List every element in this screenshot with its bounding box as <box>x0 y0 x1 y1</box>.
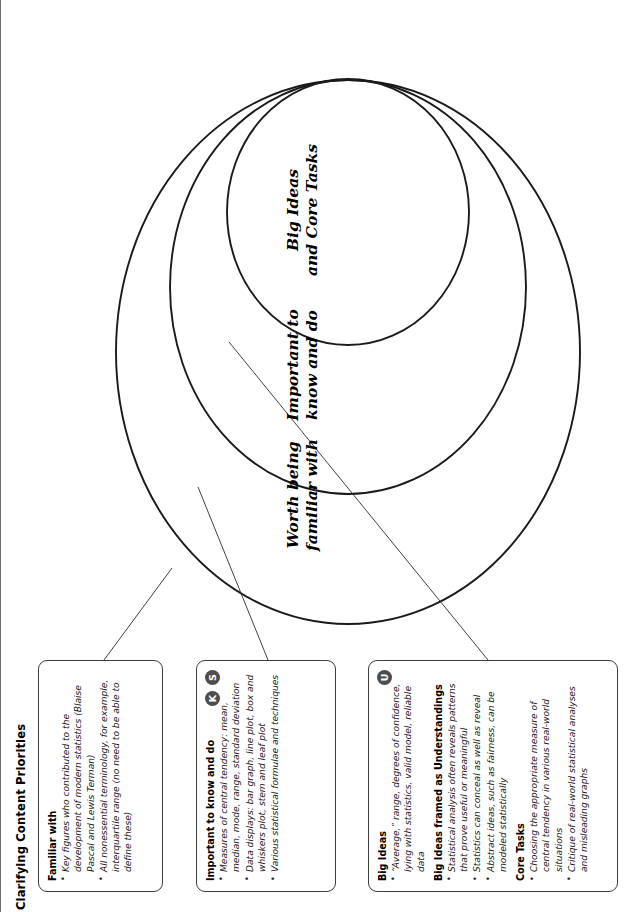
list-item: All nonessential terminology, for exampl… <box>98 671 135 881</box>
page-title: Clarifying Content Priorities <box>14 724 28 910</box>
callout-bullet-list: Key figures who contributed to the devel… <box>60 671 135 881</box>
ring-label-middle: Important to know and do <box>284 305 322 425</box>
list-item: Various statistical formulae and techniq… <box>269 671 281 881</box>
callout-bullet-list-big-ideas: “Average,” range, degrees of confidence,… <box>390 671 427 881</box>
inner-ring <box>227 79 469 345</box>
middle-ring <box>170 80 526 494</box>
callout-familiar-with[interactable]: Familiar with Key figures who contribute… <box>38 660 163 892</box>
leader-line-bigideas <box>229 342 488 660</box>
leader-line-familiar <box>104 568 172 660</box>
leader-line-important <box>198 487 268 660</box>
callout-heading-core-tasks: Core Tasks <box>515 671 527 881</box>
list-item: “Average,” range, degrees of confidence,… <box>390 671 427 881</box>
list-item: Critique of real-world statistical analy… <box>566 671 591 881</box>
callout-heading-big-ideas: Big Ideas <box>377 671 389 881</box>
callout-bullet-list: Measures of central tendency: mean, medi… <box>218 671 281 881</box>
ring-label-inner: Big Ideas and Core Tasks <box>284 135 322 285</box>
callout-heading: Familiar with <box>47 671 59 881</box>
ring-label-outer: Worth being familiar with <box>284 430 322 560</box>
list-item: Data displays: bar graph, line plot, box… <box>244 671 269 881</box>
list-item: Measures of central tendency: mean, medi… <box>218 671 243 881</box>
figure-canvas: Clarifying Content Priorities Worth bein… <box>0 0 640 912</box>
list-item: Statistical analysis often reveals patte… <box>446 671 471 881</box>
page-rule-divider <box>0 0 1 912</box>
rotated-figure-stage: Clarifying Content Priorities Worth bein… <box>0 0 640 912</box>
list-item: Abstract ideas, such as fairness, can be… <box>485 671 510 881</box>
callout-big-ideas-and-core-tasks[interactable]: U Big Ideas “Average,” range, degrees of… <box>368 660 618 892</box>
callout-important-to-know-and-do[interactable]: K S Important to know and do Measures of… <box>196 660 336 892</box>
list-item: Choosing the appropriate measure of cent… <box>528 671 565 881</box>
callout-bullet-list-core-tasks: Choosing the appropriate measure of cent… <box>528 671 590 881</box>
list-item: Key figures who contributed to the devel… <box>60 671 97 881</box>
outer-ring <box>116 80 580 624</box>
callout-bullet-list-understandings: Statistical analysis often reveals patte… <box>446 671 509 881</box>
list-item: Statistics can conceal as well as reveal <box>471 671 483 881</box>
callout-heading-understandings: Big Ideas framed as Understandings <box>433 671 445 881</box>
